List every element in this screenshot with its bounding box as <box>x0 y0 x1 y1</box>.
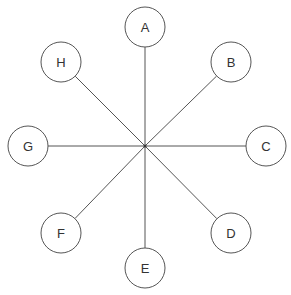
star-diagram: ABCDEFGH <box>0 0 291 295</box>
node-d: D <box>211 213 251 253</box>
node-e: E <box>125 248 165 288</box>
node-b: B <box>211 42 251 82</box>
edge-hub-f <box>75 146 145 219</box>
node-label: E <box>141 261 150 276</box>
node-label: F <box>57 226 65 241</box>
node-label: H <box>56 55 65 70</box>
node-label: D <box>226 226 235 241</box>
node-label: G <box>23 139 33 154</box>
node-g: G <box>8 126 48 166</box>
node-label: B <box>227 55 236 70</box>
node-h: H <box>41 42 81 82</box>
hub-point <box>144 145 147 148</box>
edge-hub-h <box>75 76 145 146</box>
edges <box>48 47 246 248</box>
edge-hub-d <box>145 146 217 219</box>
node-a: A <box>125 7 165 47</box>
node-label: C <box>261 139 270 154</box>
node-f: F <box>41 213 81 253</box>
node-c: C <box>246 126 286 166</box>
edge-hub-b <box>145 76 217 146</box>
node-label: A <box>141 20 150 35</box>
